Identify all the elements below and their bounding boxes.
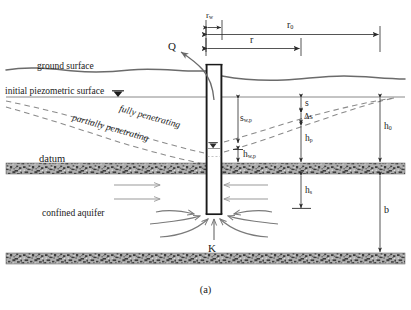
- label-confined-aquifer: confined aquifer: [42, 209, 105, 219]
- label-s: s: [305, 99, 309, 109]
- figure-caption: (a): [0, 284, 411, 295]
- figure-container: rw r0 r Q ground surface initial piezome…: [0, 0, 411, 310]
- label-datum: datum: [39, 154, 65, 165]
- label-initial-piezometric-surface: initial piezometric surface: [5, 87, 104, 97]
- label-hp: hp: [305, 134, 313, 144]
- label-hydraulic-conductivity-K: K: [208, 243, 216, 254]
- label-discharge-Q: Q: [168, 41, 176, 52]
- label-ground-surface: ground surface: [37, 62, 94, 72]
- label-h0: h0: [384, 122, 392, 132]
- label-hwp: hw,p: [243, 150, 256, 160]
- label-b: b: [384, 205, 389, 215]
- upper-confining-layer: [6, 163, 405, 174]
- label-r: r: [250, 35, 253, 46]
- label-rw: rw: [206, 11, 213, 21]
- label-hs: hs: [305, 186, 312, 196]
- label-swp: sw,p: [240, 114, 252, 124]
- label-delta-s: Δs: [304, 112, 313, 121]
- label-r0: r0: [287, 20, 293, 31]
- lower-confining-layer: [6, 253, 405, 264]
